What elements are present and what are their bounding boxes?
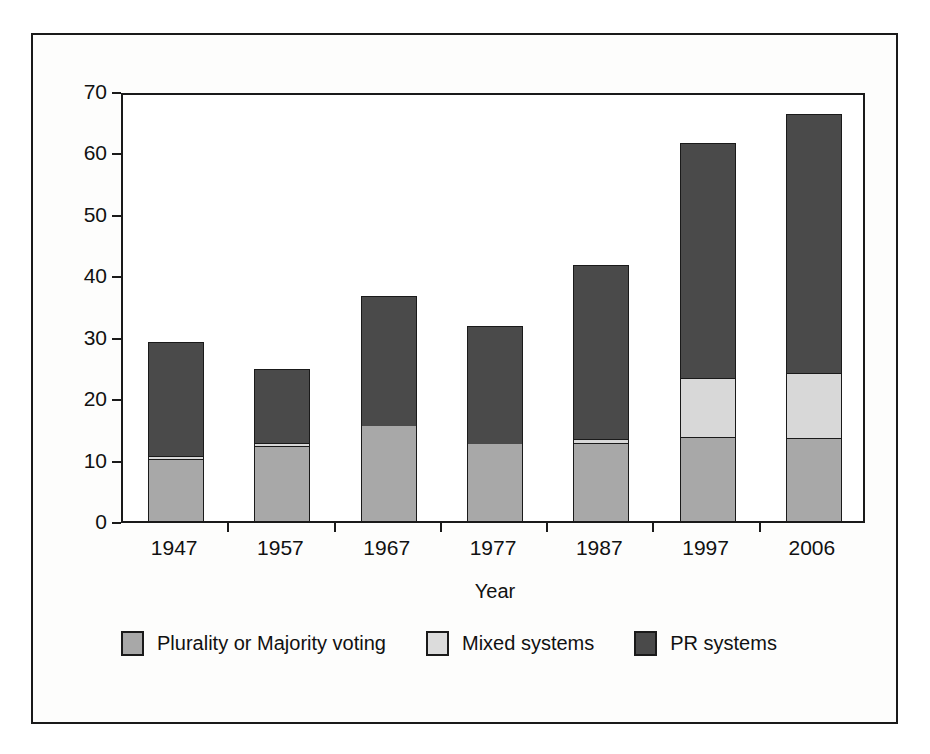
legend-item[interactable]: Plurality or Majority voting [121,631,386,656]
y-axis-tick-mark [112,461,121,463]
y-axis-tick-label: 70 [84,79,107,105]
bar-segment-pr[interactable] [680,143,736,378]
legend-label: PR systems [670,632,777,655]
y-axis-tick-label: 50 [84,202,107,228]
legend-swatch-icon [121,631,144,656]
bar-segment-pr[interactable] [361,296,417,427]
x-axis-tick-label: 1957 [235,536,325,560]
y-axis-tick-label: 10 [84,448,107,474]
bar-segment-pr[interactable] [467,326,523,444]
x-axis-tick-label: 1987 [554,536,644,560]
bar-segment-plurality[interactable] [467,444,523,521]
y-axis-tick-label: 30 [84,325,107,351]
legend-swatch-icon [426,631,449,656]
y-axis-tick-mark [112,92,121,94]
bar-segment-plurality[interactable] [680,438,736,521]
bar-segment-plurality[interactable] [361,426,417,521]
x-axis-tick-label: 1977 [448,536,538,560]
chart-legend: Plurality or Majority votingMixed system… [121,631,881,656]
bar-segment-plurality[interactable] [148,460,204,521]
y-axis-tick-mark [112,153,121,155]
x-axis-tick-label: 1947 [129,536,219,560]
plot-area [121,93,865,523]
legend-swatch-icon [634,631,657,656]
y-axis-tick-label: 40 [84,263,107,289]
figure-frame: 010203040506070 194719571967197719871997… [31,33,898,724]
x-axis-tick-label: 1967 [342,536,432,560]
bar-stack [361,296,417,521]
legend-label: Mixed systems [462,632,594,655]
bar-segment-plurality[interactable] [254,447,310,521]
bar-stack [573,265,629,521]
bar-segment-pr[interactable] [573,265,629,439]
bar-segment-pr[interactable] [786,114,842,373]
x-axis-title: Year [121,580,869,603]
bar-stack [467,326,523,521]
x-axis-tick-mark [546,523,548,532]
x-axis-tick-label: 1997 [661,536,751,560]
y-axis-tick-mark [112,522,121,524]
x-axis-tick-label: 2006 [767,536,857,560]
bar-segment-pr[interactable] [148,342,204,456]
y-axis-tick-mark [112,399,121,401]
y-axis-tick-mark [112,215,121,217]
bar-segment-plurality[interactable] [786,439,842,521]
chart-container: 010203040506070 194719571967197719871997… [33,35,900,726]
x-axis-tick-mark [652,523,654,532]
bar-segment-plurality[interactable] [573,444,629,521]
x-axis-tick-mark [227,523,229,532]
x-axis-tick-mark [440,523,442,532]
bar-stack [680,143,736,521]
legend-label: Plurality or Majority voting [157,632,386,655]
x-axis-tick-mark [334,523,336,532]
y-axis-tick-label: 0 [95,509,107,535]
legend-item[interactable]: Mixed systems [426,631,594,656]
x-axis-tick-mark [759,523,761,532]
y-axis-tick-mark [112,276,121,278]
bar-segment-pr[interactable] [254,369,310,443]
bar-segment-mixed[interactable] [680,378,736,438]
bar-segment-mixed[interactable] [786,373,842,439]
bar-stack [254,369,310,521]
bars-layer [123,95,863,521]
y-axis-tick-label: 60 [84,140,107,166]
x-axis: 1947195719671977198719972006 [121,523,869,583]
legend-item[interactable]: PR systems [634,631,777,656]
bar-stack [148,342,204,521]
bar-stack [786,114,842,521]
y-axis-tick-label: 20 [84,386,107,412]
y-axis-tick-mark [112,338,121,340]
y-axis: 010203040506070 [33,35,121,726]
